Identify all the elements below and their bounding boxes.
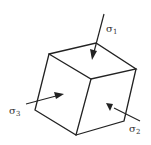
label-sigma3: σ 3: [9, 105, 20, 118]
sigma2-arrow: [106, 103, 140, 121]
cube: [35, 43, 136, 135]
svg-text:σ: σ: [106, 23, 113, 34]
label-sigma1: σ 1: [106, 23, 117, 36]
svg-text:3: 3: [16, 110, 20, 118]
cube-top-face: [49, 43, 136, 79]
svg-text:1: 1: [113, 28, 117, 36]
svg-text:σ: σ: [9, 105, 16, 116]
label-sigma2: σ 2: [129, 123, 140, 136]
svg-text:2: 2: [136, 128, 140, 136]
sigma3-arrow: [26, 92, 64, 104]
stress-cube-diagram: σ 1 σ 3 σ 2: [0, 0, 151, 145]
svg-text:σ: σ: [129, 123, 136, 134]
sigma1-arrow: [90, 14, 104, 60]
